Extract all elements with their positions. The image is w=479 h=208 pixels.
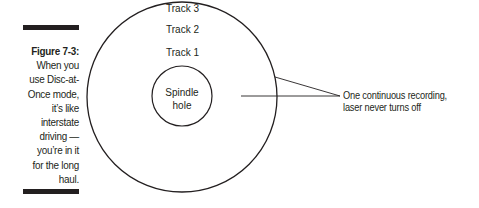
spindle-label-line1: Spindle [165, 87, 199, 98]
callout-leader-edge [275, 77, 340, 96]
callout-line2: laser never turns off [343, 101, 447, 113]
track-3-label: Track 3 [166, 3, 199, 14]
track-1-label: Track 1 [166, 47, 199, 58]
callout-line1: One continuous recording, [343, 89, 447, 101]
track-2-label: Track 2 [166, 24, 199, 35]
spindle-label-line2: hole [173, 100, 192, 111]
callout-text: One continuous recording, laser never tu… [343, 89, 447, 113]
